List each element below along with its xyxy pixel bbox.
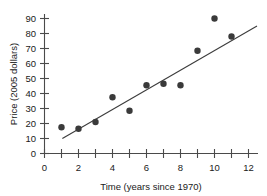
y-tick-label-80: 80	[25, 28, 36, 39]
y-tick-label-70: 70	[25, 43, 36, 54]
x-tick-label-2: 2	[76, 162, 81, 173]
trend-line	[62, 26, 257, 139]
x-tick-label-8: 8	[178, 162, 183, 173]
y-axis-title: Price (2005 dollars)	[8, 43, 19, 125]
x-tick-label-6: 6	[144, 162, 149, 173]
y-tick-label-30: 30	[25, 103, 36, 114]
x-tick-label-12: 12	[243, 162, 254, 173]
x-axis-title: Time (years since 1970)	[100, 181, 202, 192]
y-tick-labels: 0 10 20 30 40 50 60 70 80 90	[25, 13, 36, 159]
data-point	[92, 119, 98, 125]
x-tick-label-4: 4	[110, 162, 115, 173]
data-point	[194, 48, 200, 54]
y-tick-label-60: 60	[25, 58, 36, 69]
data-point	[160, 81, 166, 87]
x-tick-labels: 0 2 4 6 8 10 12	[42, 162, 254, 173]
y-tick-label-90: 90	[25, 13, 36, 24]
x-tick-label-0: 0	[42, 162, 47, 173]
data-point	[228, 33, 234, 39]
y-tick-label-40: 40	[25, 88, 36, 99]
data-point	[177, 82, 183, 88]
data-point	[143, 82, 149, 88]
x-tick-label-10: 10	[209, 162, 220, 173]
data-point	[75, 126, 81, 132]
data-points	[58, 15, 234, 132]
plot-area: 0 10 20 30 40 50 60 70 80 90	[0, 0, 267, 196]
y-tick-label-20: 20	[25, 118, 36, 129]
data-point	[126, 108, 132, 114]
scatter-chart: 0 10 20 30 40 50 60 70 80 90	[0, 0, 267, 196]
data-point	[58, 124, 64, 130]
data-point	[109, 94, 115, 100]
y-tick-label-50: 50	[25, 73, 36, 84]
y-tick-label-0: 0	[31, 148, 36, 159]
data-point	[211, 15, 217, 21]
y-tick-label-10: 10	[25, 133, 36, 144]
